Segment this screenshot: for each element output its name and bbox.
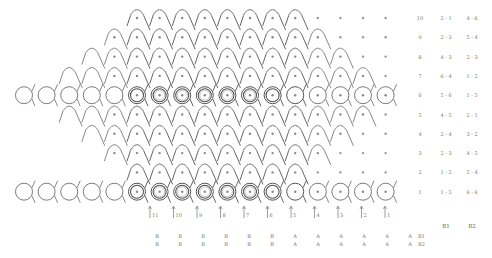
b2-pair: 1 - 2 (466, 73, 477, 79)
bar-cell: B (155, 241, 159, 247)
needle-label: 11 (152, 212, 158, 218)
needle-label: 6 (270, 212, 273, 218)
b2-pair: 4 - 6 (466, 15, 477, 21)
bar-cell: A (384, 241, 389, 247)
b2-pair: 3 - 2 (466, 131, 477, 137)
bar-cell: A (361, 233, 366, 239)
row-number: 9 (418, 34, 421, 40)
bar-row-label: B1 (418, 233, 425, 239)
needle-label: 9 (199, 212, 202, 218)
bar-cell: A (384, 233, 389, 239)
row-number: 10 (417, 15, 423, 21)
needle-label: 3 (340, 212, 343, 218)
row-number: 6 (418, 92, 421, 98)
b1-pair: 4 - 3 (440, 54, 451, 60)
b1-pair: 6 - 4 (440, 73, 451, 79)
bar-cell: A (407, 233, 412, 239)
b1-pair: 2 - 4 (440, 131, 451, 137)
bar-cell: A (361, 241, 366, 247)
row-number: 2 (418, 169, 421, 175)
b1-pair: 1 - 2 (440, 169, 451, 175)
row-number: 5 (418, 112, 421, 118)
row-number: 1 (418, 189, 421, 195)
stitch-grid (16, 10, 397, 203)
b1-pair: 2 - 3 (440, 34, 451, 40)
b2-pair: 4 - 5 (466, 150, 477, 156)
bar-cell: B (178, 233, 182, 239)
needle-label: 8 (223, 212, 226, 218)
b2-pair: 5 - 4 (466, 169, 477, 175)
bar-cell: B (224, 241, 228, 247)
row-number: 7 (418, 73, 421, 79)
b1-pair: 5 - 6 (440, 92, 451, 98)
bar-cell: A (315, 233, 320, 239)
row-number: 4 (418, 131, 421, 137)
bar-cell: A (407, 241, 412, 247)
bar-cell: B (201, 233, 205, 239)
bar-cell: B (270, 233, 274, 239)
b1-pair: 4 - 5 (440, 112, 451, 118)
bar-cell: B (155, 233, 159, 239)
b1-pair: 1 - 5 (440, 189, 451, 195)
bar-cell: A (315, 241, 320, 247)
needle-label: 10 (176, 212, 182, 218)
b2-pair: 2 - 3 (466, 54, 477, 60)
bar-cell: B (201, 241, 205, 247)
bar-cell: B (247, 241, 251, 247)
bar-cell: B (178, 241, 182, 247)
bar-cell: B (247, 233, 251, 239)
row-number: 8 (418, 54, 421, 60)
b1-pair: 2 - 1 (440, 15, 451, 21)
needle-label: 1 (387, 212, 390, 218)
bar-cell: B (224, 233, 228, 239)
bar-cell: A (292, 233, 297, 239)
header-b2: B2 (468, 223, 476, 229)
needle-label: 5 (293, 212, 296, 218)
bar-cell: A (292, 241, 297, 247)
b1-pair: 2 - 3 (440, 150, 451, 156)
row-number: 3 (418, 150, 421, 156)
header-b1: B1 (442, 223, 450, 229)
b2-pair: 2 - 1 (466, 112, 477, 118)
b2-pair: 1 - 5 (466, 92, 477, 98)
needle-label: 2 (364, 212, 367, 218)
bar-cell: B (270, 241, 274, 247)
stitch-diagram: 102 - 14 - 692 - 35 - 484 - 32 - 376 - 4… (0, 0, 492, 258)
bar-cell: A (338, 241, 343, 247)
b2-pair: 5 - 4 (466, 34, 477, 40)
diagram-labels: 102 - 14 - 692 - 35 - 484 - 32 - 376 - 4… (149, 15, 478, 247)
needle-label: 4 (317, 212, 320, 218)
needle-label: 7 (246, 212, 249, 218)
bar-cell: A (338, 233, 343, 239)
b2-pair: 6 - 6 (466, 189, 477, 195)
bar-row-label: B2 (418, 241, 425, 247)
